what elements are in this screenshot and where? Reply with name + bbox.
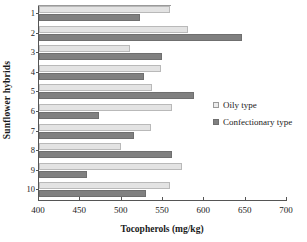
bar-group: 9 xyxy=(39,162,286,182)
bar-oily xyxy=(39,124,151,131)
y-axis-title-text: Sunflower hybrids xyxy=(2,61,12,139)
bar-group: 1 xyxy=(39,5,286,25)
y-tick-label: 7 xyxy=(15,127,35,136)
y-tick-label: 5 xyxy=(15,87,35,96)
x-tick-mark xyxy=(286,197,287,201)
confectionary-swatch-icon xyxy=(213,119,219,125)
x-tick-label: 550 xyxy=(155,205,169,215)
bar-oily xyxy=(39,182,170,189)
y-axis-title: Sunflower hybrids xyxy=(0,0,15,200)
x-tick-label: 400 xyxy=(31,205,45,215)
tocopherols-bar-chart: Sunflower hybrids 12345678910 4004505005… xyxy=(0,0,307,242)
bar-confectionary xyxy=(39,171,87,178)
x-tick-label: 600 xyxy=(197,205,211,215)
x-tick-mark xyxy=(162,197,163,201)
bar-group: 4 xyxy=(39,64,286,84)
x-tick-label: 450 xyxy=(73,205,87,215)
bar-oily xyxy=(39,84,152,91)
x-tick-mark xyxy=(79,197,80,201)
x-tick-label: 700 xyxy=(279,205,293,215)
bar-confectionary xyxy=(39,34,242,41)
bar-confectionary xyxy=(39,14,140,21)
x-tick-mark xyxy=(203,197,204,201)
y-tick-label: 6 xyxy=(15,107,35,116)
bar-group: 8 xyxy=(39,142,286,162)
bar-oily xyxy=(39,104,172,111)
y-tick-label: 3 xyxy=(15,48,35,57)
bar-confectionary xyxy=(39,132,134,139)
x-tick-label: 500 xyxy=(114,205,128,215)
bar-oily xyxy=(39,45,130,52)
bar-oily xyxy=(39,143,121,150)
bar-group: 2 xyxy=(39,25,286,45)
legend-item: Oily type xyxy=(213,100,292,110)
chart-legend: Oily typeConfectionary type xyxy=(213,100,292,134)
y-tick-label: 4 xyxy=(15,68,35,77)
y-tick-label: 2 xyxy=(15,29,35,38)
x-axis-title: Tocopherols (mg/kg) xyxy=(38,224,286,234)
x-tick-mark xyxy=(121,197,122,201)
legend-label: Oily type xyxy=(223,100,257,110)
oily-swatch-icon xyxy=(213,102,219,108)
bar-group: 3 xyxy=(39,44,286,64)
y-tick-label: 9 xyxy=(15,166,35,175)
legend-label: Confectionary type xyxy=(223,117,292,127)
bar-confectionary xyxy=(39,92,194,99)
bar-oily xyxy=(39,163,182,170)
bar-confectionary xyxy=(39,53,162,60)
y-tick-label: 1 xyxy=(15,9,35,18)
bar-oily xyxy=(39,26,188,33)
x-tick-label: 650 xyxy=(238,205,252,215)
x-tick-mark xyxy=(245,197,246,201)
bar-confectionary xyxy=(39,190,146,197)
bar-oily xyxy=(39,6,170,13)
bar-confectionary xyxy=(39,73,144,80)
x-tick-mark xyxy=(38,197,39,201)
y-tick-label: 8 xyxy=(15,146,35,155)
bar-oily xyxy=(39,65,161,72)
legend-item: Confectionary type xyxy=(213,117,292,127)
y-tick-label: 10 xyxy=(15,185,35,194)
bar-confectionary xyxy=(39,151,172,158)
bar-confectionary xyxy=(39,112,99,119)
